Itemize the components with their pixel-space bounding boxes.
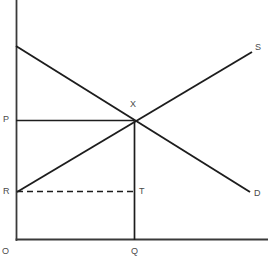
diagram-canvas: O P R Q T X S D [0, 0, 268, 267]
price-floor-label: R [3, 187, 10, 196]
quantity-label: Q [131, 247, 138, 256]
equilibrium-label: X [130, 100, 136, 109]
supply-demand-chart [0, 0, 268, 267]
supply-curve-label: S [255, 43, 261, 52]
demand-curve [16, 46, 250, 192]
price-label: P [3, 115, 9, 124]
origin-label: O [2, 247, 9, 256]
demand-curve-label: D [254, 189, 261, 198]
point-t-label: T [139, 187, 145, 196]
